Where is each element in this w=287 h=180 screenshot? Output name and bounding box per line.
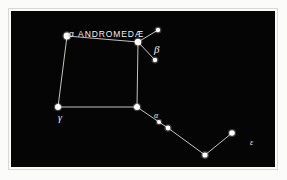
star-marker (202, 152, 207, 157)
constellation-line-layer (58, 30, 232, 155)
star-label-epsilon: ε (250, 139, 253, 147)
star-marker-epsilon (229, 130, 235, 136)
star-marker (166, 126, 171, 131)
star-label-beta: β (154, 44, 159, 55)
constellation-line (205, 133, 232, 155)
plate-border-bottom (8, 169, 278, 170)
plate-border-left (8, 8, 9, 170)
star-marker (153, 58, 157, 62)
constellation-line (168, 128, 205, 155)
plate-border-right (277, 8, 278, 170)
star-label-alpha: α (154, 112, 158, 120)
star-layer (54, 27, 236, 159)
sky-panel: α ANDROMEDÆ β γ α ε (11, 11, 275, 167)
constellation-line (58, 36, 67, 107)
star-marker-gamma (55, 104, 61, 110)
star-marker (156, 28, 160, 32)
plate-border-top (8, 8, 278, 9)
star-marker-beta (135, 39, 141, 45)
constellation-line (137, 42, 138, 107)
star-label-alpha-andromedae: α ANDROMEDÆ (69, 30, 144, 39)
star-chart-plate: α ANDROMEDÆ β γ α ε (0, 0, 287, 180)
star-marker (157, 120, 161, 124)
star-marker-alpha (134, 104, 140, 110)
star-label-gamma: γ (58, 113, 62, 123)
